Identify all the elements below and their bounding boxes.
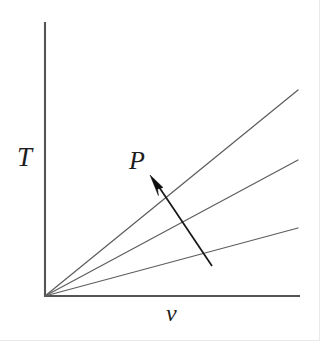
- pressure-arrow-shaft: [157, 184, 212, 266]
- isobar-line-shallow: [45, 228, 298, 296]
- y-axis-label: T: [17, 144, 32, 171]
- diagram-canvas: [0, 0, 320, 341]
- x-axis-label: ν: [166, 301, 177, 325]
- pressure-arrow-label: P: [129, 148, 145, 174]
- isobar-line-middle: [45, 160, 298, 296]
- isobar-line-steep: [45, 90, 298, 296]
- pressure-arrow-head-icon: [150, 175, 163, 196]
- thermodynamic-diagram-figure: T ν P: [0, 0, 320, 341]
